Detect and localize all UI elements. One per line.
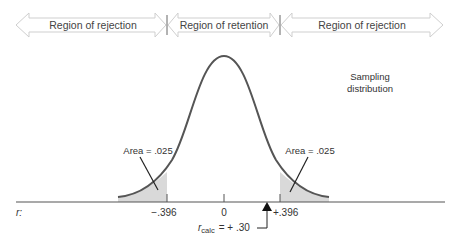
axis-variable-label: r: (16, 207, 22, 218)
r-calc-arrow-icon (262, 202, 272, 211)
curve-label-line1: Sampling (350, 71, 390, 82)
sampling-distribution-diagram: Region of rejection Region of retention … (0, 0, 451, 243)
shaded-area-right (280, 172, 329, 202)
region-label-left: Region of rejection (49, 19, 137, 31)
r-calc-leader (257, 211, 267, 228)
tick-label-neg: −.396 (151, 207, 177, 218)
region-label-center: Region of retention (180, 19, 269, 31)
area-label-right: Area = .025 (285, 145, 334, 156)
r-calc-value: = + .30 (219, 222, 251, 233)
tick-label-pos: +.396 (273, 207, 299, 218)
r-calc-label: rcalc= + .30 (198, 222, 250, 235)
tick-label-zero: 0 (221, 207, 227, 218)
area-label-left: Area = .025 (123, 145, 172, 156)
curve-label-line2: distribution (347, 83, 393, 94)
region-label-right: Region of rejection (318, 19, 406, 31)
r-calc-subscript: calc (201, 226, 215, 235)
